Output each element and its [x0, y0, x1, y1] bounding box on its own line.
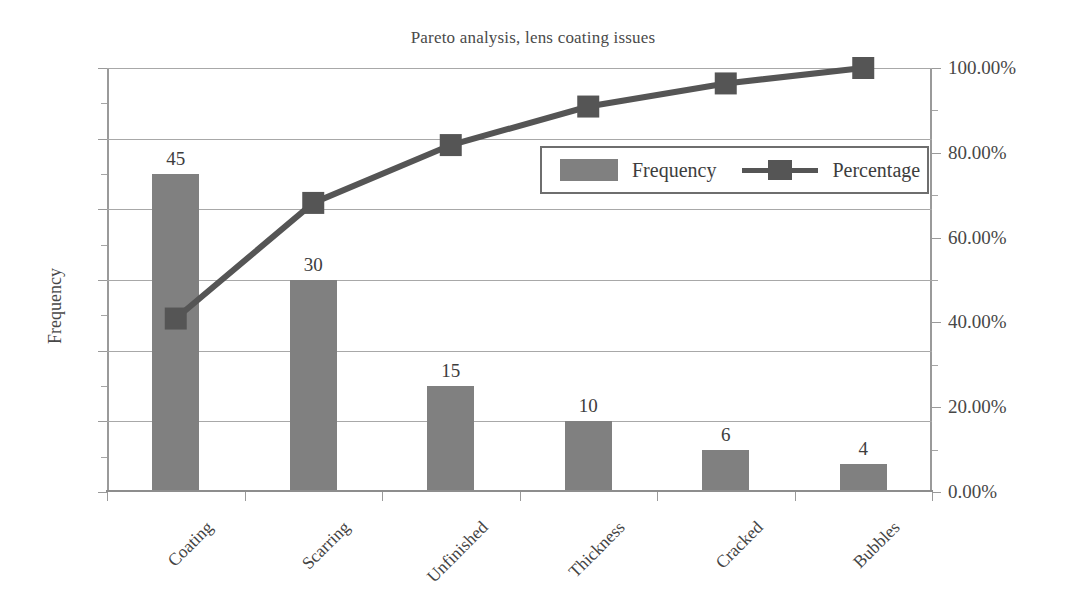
- x-tick-mark: [657, 492, 658, 501]
- right-tick-mark: [932, 407, 941, 408]
- left-tick-mark: [98, 139, 107, 140]
- x-tick-mark: [382, 492, 383, 501]
- right-minor-tick: [932, 365, 938, 366]
- x-tick-mark: [795, 492, 796, 501]
- right-tick-mark: [932, 238, 941, 239]
- y-axis-title: Frequency: [45, 268, 66, 344]
- legend-swatch-frequency-icon: [560, 159, 618, 181]
- left-tick-mark: [98, 421, 107, 422]
- right-minor-tick: [932, 280, 938, 281]
- left-tick-mark: [98, 351, 107, 352]
- plot-area: 0102030405060 0.00%20.00%40.00%60.00%80.…: [107, 68, 932, 492]
- category-label: Coating: [0, 517, 217, 612]
- legend-item-percentage[interactable]: Percentage: [716, 159, 920, 182]
- right-tick-mark: [932, 68, 941, 69]
- bar-value-label: 6: [721, 424, 731, 446]
- bar-value-label: 30: [304, 254, 323, 276]
- legend-label-percentage: Percentage: [832, 159, 920, 182]
- x-tick-mark: [932, 492, 933, 501]
- right-tick-mark: [932, 322, 941, 323]
- percentage-marker[interactable]: [165, 308, 187, 330]
- chart-legend[interactable]: Frequency Percentage: [540, 146, 929, 194]
- percentage-marker[interactable]: [715, 72, 737, 94]
- legend-label-frequency: Frequency: [632, 159, 716, 182]
- legend-item-frequency[interactable]: Frequency: [542, 159, 716, 182]
- left-tick-mark: [98, 209, 107, 210]
- x-axis-baseline: [106, 490, 933, 492]
- bar-value-label: 15: [441, 360, 460, 382]
- chart-title: Pareto analysis, lens coating issues: [0, 28, 1066, 48]
- right-minor-tick: [932, 110, 938, 111]
- right-tick-label: 40.00%: [948, 311, 1066, 333]
- percentage-marker[interactable]: [577, 96, 599, 118]
- left-tick-mark: [98, 280, 107, 281]
- right-minor-tick: [932, 195, 938, 196]
- bar-value-label: 4: [859, 438, 869, 460]
- percentage-marker[interactable]: [302, 192, 324, 214]
- right-tick-label: 20.00%: [948, 396, 1066, 418]
- left-tick-mark: [98, 68, 107, 69]
- right-tick-label: 100.00%: [948, 57, 1066, 79]
- x-tick-mark: [520, 492, 521, 501]
- right-tick-label: 60.00%: [948, 227, 1066, 249]
- pareto-chart: Pareto analysis, lens coating issues Fre…: [0, 0, 1066, 612]
- x-tick-mark: [107, 492, 108, 501]
- left-tick-mark: [98, 492, 107, 493]
- percentage-line-series: [107, 68, 932, 492]
- percentage-marker[interactable]: [852, 57, 874, 79]
- legend-line-percentage-icon: [742, 159, 818, 181]
- bar-value-label: 10: [579, 395, 598, 417]
- right-tick-mark: [932, 153, 941, 154]
- x-tick-mark: [245, 492, 246, 501]
- right-tick-label: 80.00%: [948, 142, 1066, 164]
- right-tick-mark: [932, 492, 941, 493]
- right-minor-tick: [932, 450, 938, 451]
- bar-value-label: 45: [166, 148, 185, 170]
- percentage-marker[interactable]: [440, 134, 462, 156]
- right-tick-label: 0.00%: [948, 481, 1066, 503]
